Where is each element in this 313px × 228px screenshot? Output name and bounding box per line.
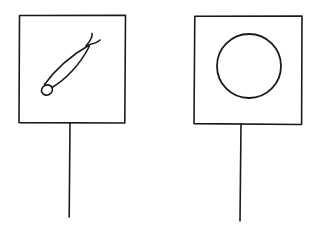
right-sign — [194, 16, 302, 221]
circle-icon — [217, 34, 281, 98]
left-sign-board — [19, 15, 126, 123]
left-sign-post — [69, 123, 70, 217]
pod-icon — [40, 34, 100, 97]
sketch-canvas — [0, 0, 313, 228]
right-sign-board — [194, 16, 302, 125]
left-sign — [19, 15, 126, 217]
right-sign-post — [240, 124, 241, 221]
